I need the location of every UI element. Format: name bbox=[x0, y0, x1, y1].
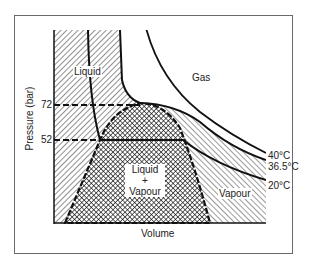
phase-diagram bbox=[0, 0, 320, 266]
y-axis-label: Pressure (bar) bbox=[24, 84, 35, 154]
label-20c: 20°C bbox=[268, 180, 290, 191]
tick-52: 52 bbox=[41, 134, 52, 145]
label-gas: Gas bbox=[192, 72, 210, 83]
x-axis-label: Volume bbox=[141, 228, 174, 239]
mix-line2: Vapour bbox=[126, 186, 164, 197]
label-liquid-vapour: Liquid + Vapour bbox=[125, 164, 165, 197]
label-liquid: Liquid bbox=[73, 66, 102, 77]
tick-72: 72 bbox=[41, 99, 52, 110]
label-36-5c: 36.5°C bbox=[268, 161, 299, 172]
label-40c: 40°C bbox=[268, 150, 290, 161]
mix-plus: + bbox=[126, 175, 164, 186]
label-vapour: Vapour bbox=[218, 188, 252, 199]
mix-line1: Liquid bbox=[126, 164, 164, 175]
